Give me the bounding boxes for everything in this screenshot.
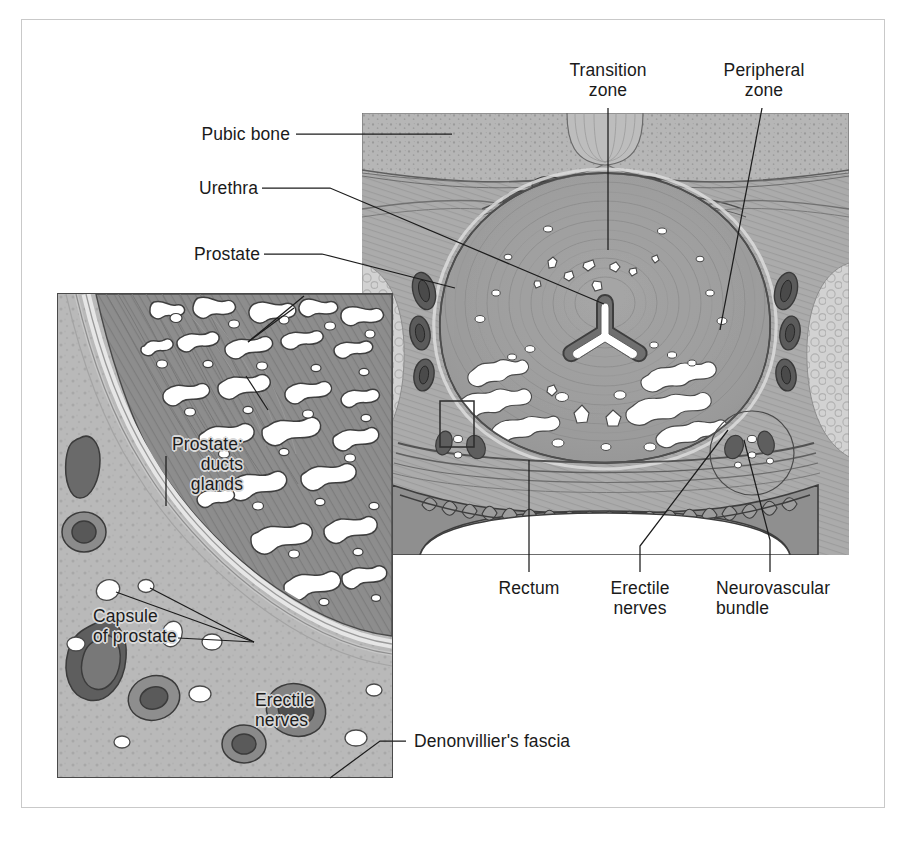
label-erectile-nerves-main: Erectile nerves (580, 578, 700, 618)
label-pubic-bone: Pubic bone (140, 124, 290, 144)
label-transition-zone: Transition zone (538, 60, 678, 100)
main-cross-section-illustration (362, 113, 849, 555)
label-capsule-of-prostate: Capsule of prostate (93, 606, 283, 646)
label-rectum: Rectum (469, 578, 589, 598)
label-denonvilliers-fascia: Denonvillier's fascia (414, 731, 674, 751)
label-urethra: Urethra (140, 178, 258, 198)
label-prostate: Prostate (140, 244, 260, 264)
label-prostate-ducts-glands: Prostate: ducts glands (68, 434, 243, 494)
label-erectile-nerves-inset: Erectile nerves (255, 690, 385, 730)
label-peripheral-zone: Peripheral zone (694, 60, 834, 100)
label-neurovascular-bundle: Neurovascular bundle (716, 578, 896, 618)
figure-canvas: Pubic bone Urethra Prostate Transition z… (0, 0, 904, 842)
